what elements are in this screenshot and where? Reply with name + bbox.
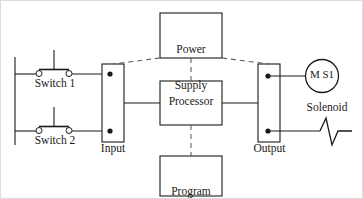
power-supply-label-line1: Power	[160, 44, 222, 56]
powersupply-to-input-dashed	[113, 58, 160, 64]
switch1-terminal-left	[36, 71, 42, 77]
solenoid-label: Solenoid	[296, 102, 358, 114]
input-terminal-1	[107, 71, 112, 76]
switch-2-label: Switch 2	[24, 135, 86, 147]
motor-label: M S1	[303, 69, 341, 80]
plc-block-diagram: Power Supply Processor Program Panel Inp…	[0, 0, 363, 199]
output-module-label: Output	[247, 143, 292, 155]
processor-label: Processor	[160, 96, 222, 108]
input-module-box	[102, 64, 124, 142]
power-supply-label-line2: Supply	[160, 80, 222, 92]
program-panel-label: Program Panel	[158, 163, 224, 199]
switch2-terminal-right	[66, 128, 72, 134]
input-module-label: Input	[93, 143, 133, 155]
program-panel-label-line1: Program	[158, 186, 224, 198]
powersupply-to-output-dashed	[222, 58, 269, 64]
switch-1-label: Switch 1	[24, 78, 86, 90]
switch2-terminal-left	[36, 128, 42, 134]
switch1-terminal-right	[66, 71, 72, 77]
solenoid-zigzag-symbol	[320, 118, 352, 145]
input-terminal-2	[107, 128, 112, 133]
